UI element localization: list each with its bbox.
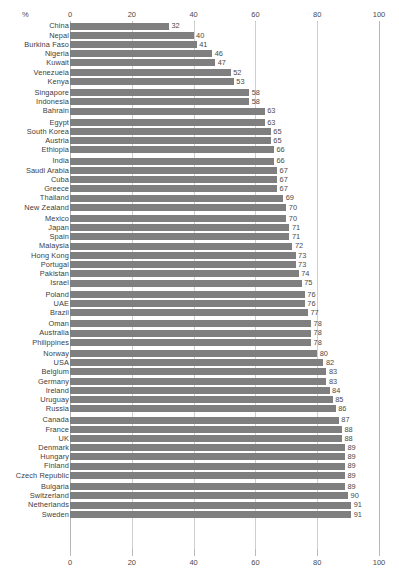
bar xyxy=(70,32,194,39)
bar-value-label: 70 xyxy=(289,203,297,212)
bar xyxy=(70,309,308,316)
bar-category-label: Venezuela xyxy=(0,68,69,77)
bar-category-label: Bahrain xyxy=(0,106,69,115)
bar-value-label: 72 xyxy=(295,241,303,250)
bar xyxy=(70,167,277,174)
bar xyxy=(70,378,326,385)
bar-category-label: Malaysia xyxy=(0,241,69,250)
bar xyxy=(70,185,277,192)
bar-category-label: Russia xyxy=(0,404,69,413)
axis-tick-label-top-100: 100 xyxy=(373,10,386,19)
bar xyxy=(70,502,351,509)
bar-value-label: 89 xyxy=(348,461,356,470)
horizontal-bar-chart: % 020406080100 020406080100 China32Nepal… xyxy=(0,0,399,583)
bar-category-label: Cuba xyxy=(0,175,69,184)
bar-value-label: 78 xyxy=(314,338,322,347)
bar xyxy=(70,435,342,442)
bar-value-label: 41 xyxy=(199,40,207,49)
bar-category-label: Japan xyxy=(0,223,69,232)
bar-row: Israel75 xyxy=(0,279,399,288)
axis-tick-label-bottom-20: 20 xyxy=(128,558,136,567)
bar-category-label: Spain xyxy=(0,232,69,241)
bar xyxy=(70,137,271,144)
bar-value-label: 58 xyxy=(252,88,260,97)
bar-value-label: 71 xyxy=(292,223,300,232)
bar-value-label: 90 xyxy=(351,491,359,500)
bar-value-label: 69 xyxy=(286,193,294,202)
bar xyxy=(70,108,265,115)
bar-value-label: 53 xyxy=(236,77,244,86)
bar-category-label: Germany xyxy=(0,377,69,386)
axis-tick-label-bottom-40: 40 xyxy=(189,558,197,567)
axis-tick-label-top-40: 40 xyxy=(189,10,197,19)
axis-tick-label-top-80: 80 xyxy=(313,10,321,19)
bar xyxy=(70,300,305,307)
bar xyxy=(70,463,345,470)
bar-value-label: 52 xyxy=(233,68,241,77)
bar xyxy=(70,483,345,490)
bar xyxy=(70,98,249,105)
bar xyxy=(70,472,345,479)
bar-value-label: 85 xyxy=(335,395,343,404)
bar-category-label: Thailand xyxy=(0,193,69,202)
bar-category-label: Belgium xyxy=(0,367,69,376)
bar xyxy=(70,41,197,48)
bar xyxy=(70,252,296,259)
bar-category-label: Norway xyxy=(0,349,69,358)
bar-category-label: Kenya xyxy=(0,77,69,86)
axis-tick-label-bottom-0: 0 xyxy=(68,558,72,567)
axis-tick-label-top-0: 0 xyxy=(68,10,72,19)
bar-category-label: Canada xyxy=(0,415,69,424)
bar-value-label: 76 xyxy=(307,290,315,299)
bar-value-label: 89 xyxy=(348,471,356,480)
bar xyxy=(70,261,296,268)
bar-value-label: 75 xyxy=(304,278,312,287)
bar-category-label: Indonesia xyxy=(0,97,69,106)
bar-value-label: 83 xyxy=(329,377,337,386)
bar xyxy=(70,89,249,96)
bar-category-label: France xyxy=(0,425,69,434)
axis-tick-label-bottom-80: 80 xyxy=(313,558,321,567)
bar-category-label: South Korea xyxy=(0,127,69,136)
bar-category-label: Pakistan xyxy=(0,269,69,278)
bar-value-label: 88 xyxy=(344,425,352,434)
bar-category-label: Philippines xyxy=(0,338,69,347)
bar-category-label: Czech Republic xyxy=(0,471,69,480)
bar xyxy=(70,146,274,153)
bar-value-label: 87 xyxy=(341,415,349,424)
bar-value-label: 84 xyxy=(332,386,340,395)
bar-value-label: 88 xyxy=(344,434,352,443)
bar-category-label: Denmark xyxy=(0,443,69,452)
bar-value-label: 32 xyxy=(171,21,179,30)
bar xyxy=(70,492,348,499)
bar-category-label: Nepal xyxy=(0,31,69,40)
bar xyxy=(70,204,286,211)
bar-value-label: 91 xyxy=(354,510,362,519)
bar-category-label: Austria xyxy=(0,136,69,145)
bar-row: Russia86 xyxy=(0,405,399,414)
axis-tick-label-top-60: 60 xyxy=(251,10,259,19)
bar xyxy=(70,69,231,76)
bar-row: Kenya53 xyxy=(0,77,399,86)
bar-value-label: 83 xyxy=(329,367,337,376)
bar-rows: China32Nepal40Burkina Faso41Nigeria46Kuw… xyxy=(0,22,399,519)
bar-row: Philippines78 xyxy=(0,338,399,347)
bar-value-label: 66 xyxy=(276,156,284,165)
bar-category-label: Hungary xyxy=(0,452,69,461)
bar-value-label: 78 xyxy=(314,319,322,328)
bar xyxy=(70,339,311,346)
bar-row: Czech Republic89 xyxy=(0,471,399,480)
bar xyxy=(70,320,311,327)
bar-category-label: Kuwait xyxy=(0,58,69,67)
bar-value-label: 86 xyxy=(338,404,346,413)
bar xyxy=(70,128,271,135)
bar xyxy=(70,426,342,433)
bar xyxy=(70,387,330,394)
bar xyxy=(70,215,286,222)
bar xyxy=(70,417,339,424)
axis-tick-label-bottom-60: 60 xyxy=(251,558,259,567)
bar-category-label: Hong Kong xyxy=(0,251,69,260)
bar-category-label: New Zealand xyxy=(0,203,69,212)
bar-category-label: Switzerland xyxy=(0,491,69,500)
bar xyxy=(70,291,305,298)
